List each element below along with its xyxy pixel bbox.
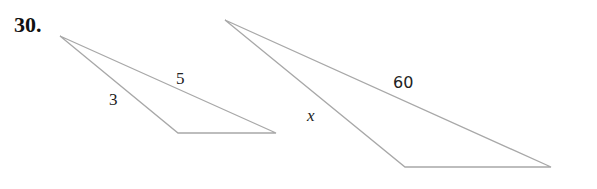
large-triangle: x 60: [225, 20, 551, 167]
large-top-side-label: 60: [393, 73, 413, 92]
small-left-side-label: 3: [109, 90, 118, 109]
large-left-side-label: x: [306, 106, 315, 125]
small-top-side-label: 5: [176, 69, 185, 88]
triangle-diagram: 3 5 x 60: [0, 0, 597, 189]
small-triangle: 3 5: [60, 36, 276, 133]
